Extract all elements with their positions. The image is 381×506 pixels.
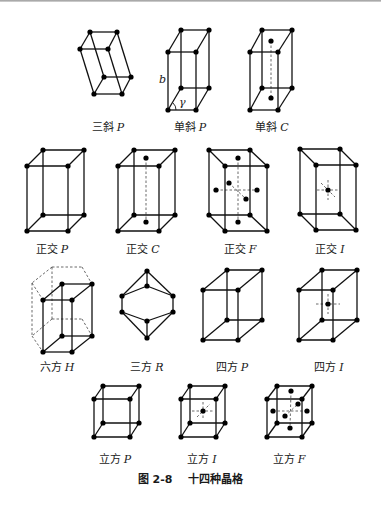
- lattice-point: [131, 147, 136, 152]
- label-tetragonal-p: 四方P: [216, 358, 248, 374]
- label-monoclinic-c: 单斜C: [255, 118, 288, 134]
- lattice-edge: [122, 271, 147, 296]
- lattice-system-name: 立方: [273, 453, 295, 466]
- dashed-guide-line: [229, 183, 246, 199]
- lattice-type-symbol: C: [280, 121, 288, 134]
- lattice-type-symbol: I: [212, 453, 216, 466]
- axis-annotation: b: [159, 73, 166, 86]
- caption-number: 图 2-8: [138, 473, 173, 486]
- lattice-point: [222, 383, 227, 388]
- lattice-point: [259, 85, 264, 90]
- lattice-point: [156, 228, 161, 233]
- center-point: [213, 187, 218, 192]
- lattice-point: [213, 396, 218, 401]
- lattice-point: [319, 267, 324, 272]
- center-point: [143, 219, 148, 224]
- label-rhombohedral-r: 三方R: [130, 358, 163, 374]
- lattice-edge: [68, 215, 84, 231]
- lattice-type-symbol: F: [298, 453, 306, 466]
- lattice-point: [264, 396, 269, 401]
- lattice-tetragonal-p: [200, 267, 264, 342]
- dashed-guide-line: [82, 267, 92, 284]
- lattice-edge: [203, 320, 227, 340]
- lattice-edge: [278, 88, 292, 110]
- lattice-edge: [196, 30, 209, 52]
- lattice-point: [247, 49, 252, 54]
- lattice-edge: [43, 284, 62, 300]
- lattice-triclinic-p: [77, 29, 133, 96]
- lattice-type-symbol: H: [65, 361, 75, 374]
- lattice-point: [69, 297, 74, 302]
- lattice-edge: [159, 150, 175, 166]
- lattice-point: [337, 146, 342, 151]
- lattice-point: [187, 383, 192, 388]
- lattice-monoclinic-p: [165, 27, 211, 112]
- lattice-edge: [299, 270, 322, 290]
- lattice-point: [274, 383, 279, 388]
- lattice-point: [296, 337, 301, 342]
- lattice-system-name: 单斜: [174, 121, 196, 134]
- lattice-system-name: 四方: [216, 361, 238, 374]
- lattice-point: [309, 420, 314, 425]
- lattice-point: [200, 287, 205, 292]
- lattice-point: [65, 163, 70, 168]
- lattice-point: [77, 46, 82, 51]
- label-orthorhombic-f: 正交F: [224, 240, 257, 256]
- lattice-point: [354, 317, 359, 322]
- lattice-point: [165, 49, 170, 54]
- center-point: [325, 301, 330, 306]
- lattice-point: [136, 420, 141, 425]
- center-point: [325, 187, 330, 192]
- center-point: [288, 388, 293, 393]
- lattice-type-symbol: I: [339, 361, 343, 374]
- lattice-point: [69, 349, 74, 354]
- lattice-point: [144, 283, 149, 288]
- lattice-point: [40, 147, 45, 152]
- lattice-system-name: 单斜: [255, 121, 277, 134]
- lattice-point: [87, 29, 92, 34]
- label-cubic-p: 立方P: [99, 450, 131, 466]
- lattice-point: [297, 211, 302, 216]
- label-tetragonal-i: 四方I: [314, 358, 343, 374]
- lattice-edge: [80, 49, 94, 94]
- dashed-guide-line: [32, 283, 43, 300]
- lattice-point: [91, 434, 96, 439]
- center-point: [295, 401, 300, 406]
- lattice-point: [127, 434, 132, 439]
- caption-title: 十四种晶格: [188, 473, 243, 486]
- lattice-edge: [68, 150, 84, 166]
- lattice-type-symbol: C: [151, 243, 159, 256]
- lattice-edge: [27, 215, 43, 231]
- lattice-point: [224, 267, 229, 272]
- lattice-point: [299, 434, 304, 439]
- lattice-edge: [300, 149, 316, 165]
- axis-annotation: γ: [179, 96, 186, 109]
- lattice-point: [170, 293, 175, 298]
- lattice-system-name: 三方: [130, 361, 152, 374]
- dashed-guide-line: [32, 267, 52, 283]
- lattice-rhombohedral-r: [119, 268, 175, 340]
- lattice-point: [264, 228, 269, 233]
- lattice-point: [235, 287, 240, 292]
- dashed-guide-line: [32, 336, 43, 352]
- lattice-point: [193, 49, 198, 54]
- lattice-point: [136, 383, 141, 388]
- lattice-point: [119, 91, 124, 96]
- lattice-point: [353, 162, 358, 167]
- center-point: [268, 95, 273, 100]
- lattice-system-name: 三斜: [92, 121, 114, 134]
- lattice-point: [337, 211, 342, 216]
- label-cubic-f: 立方F: [273, 450, 306, 466]
- lattice-point: [119, 309, 124, 314]
- lattice-orthorhombic-p: [24, 147, 86, 233]
- lattice-system-name: 正交: [224, 243, 246, 256]
- center-point: [200, 408, 205, 413]
- lattice-system-name: 立方: [187, 453, 209, 466]
- lattice-point: [81, 147, 86, 152]
- lattice-point: [264, 434, 269, 439]
- lattice-edge: [250, 150, 267, 166]
- lattice-edge: [117, 32, 131, 77]
- label-orthorhombic-i: 正交I: [315, 240, 344, 256]
- lattice-point: [247, 147, 252, 152]
- lattice-point: [247, 212, 252, 217]
